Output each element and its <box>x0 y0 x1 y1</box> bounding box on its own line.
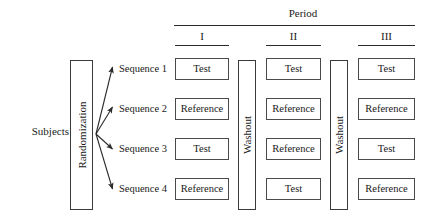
arrow-to-sequence-1 <box>96 67 113 134</box>
sequence-label-4: Sequence 4 <box>114 183 172 195</box>
sequence-label-3: Sequence 3 <box>114 143 172 155</box>
period-header-3: III <box>358 30 415 43</box>
washout-box-1: Washout <box>238 60 256 210</box>
arrow-to-sequence-3 <box>96 134 113 149</box>
period-header-1: I <box>175 30 229 43</box>
treatment-cell-s3-p3: Test <box>358 138 415 160</box>
sequence-label-1: Sequence 1 <box>114 63 172 75</box>
treatment-cell-s1-p2: Test <box>266 58 321 80</box>
treatment-cell-s2-p1: Reference <box>175 98 229 120</box>
treatment-cell-s2-p2: Reference <box>266 98 321 120</box>
treatment-cell-s4-p2: Test <box>266 178 321 200</box>
treatment-cell-s4-p1: Reference <box>175 178 229 200</box>
treatment-cell-s4-p3: Reference <box>358 178 415 200</box>
washout-label-1: Washout <box>241 116 253 154</box>
treatment-cell-s3-p1: Test <box>175 138 229 160</box>
treatment-cell-s3-p2: Reference <box>266 138 321 160</box>
treatment-cell-s1-p1: Test <box>175 58 229 80</box>
sequence-label-2: Sequence 2 <box>114 103 172 115</box>
treatment-cell-s1-p3: Test <box>358 58 415 80</box>
washout-label-2: Washout <box>333 116 345 154</box>
period-rule-2 <box>266 45 321 46</box>
crossover-design-diagram: Period I II III Subjects→ Randomization … <box>0 0 427 221</box>
treatment-cell-s2-p3: Reference <box>358 98 415 120</box>
period-group-rule <box>174 25 415 26</box>
period-rule-3 <box>358 45 415 46</box>
period-rule-1 <box>175 45 229 46</box>
arrow-to-sequence-2 <box>96 107 113 134</box>
period-header-2: II <box>266 30 321 43</box>
arrow-to-sequence-4 <box>96 134 113 189</box>
randomization-label: Randomization <box>76 101 88 168</box>
washout-box-2: Washout <box>330 60 348 210</box>
randomization-box: Randomization <box>70 60 93 210</box>
period-group-title: Period <box>273 7 333 20</box>
